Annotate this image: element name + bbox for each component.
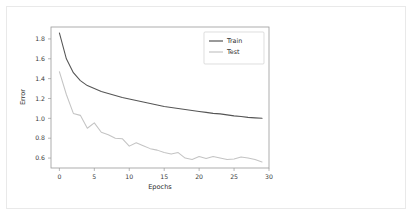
y-tick-label: 1.4 bbox=[35, 75, 45, 82]
y-axis-ticks: 0.60.81.01.21.41.61.8 bbox=[35, 35, 51, 161]
legend-label-train: Train bbox=[226, 37, 242, 45]
x-tick-label: 30 bbox=[265, 173, 273, 180]
document-frame: 051015202530 0.60.81.01.21.41.61.8 Epoch… bbox=[6, 6, 406, 209]
series-line-test bbox=[59, 72, 262, 162]
training-error-line-chart: 051015202530 0.60.81.01.21.41.61.8 Epoch… bbox=[7, 7, 307, 210]
legend-label-test: Test bbox=[226, 48, 240, 56]
y-tick-label: 1.2 bbox=[35, 95, 45, 102]
x-tick-label: 0 bbox=[57, 173, 61, 180]
chart-legend[interactable]: TrainTest bbox=[204, 32, 264, 64]
x-tick-label: 20 bbox=[195, 173, 203, 180]
x-tick-label: 5 bbox=[92, 173, 96, 180]
y-tick-label: 0.6 bbox=[35, 154, 45, 161]
chart-figure: 051015202530 0.60.81.01.21.41.61.8 Epoch… bbox=[7, 7, 307, 210]
x-tick-label: 10 bbox=[125, 173, 133, 180]
screenshot-root: 051015202530 0.60.81.01.21.41.61.8 Epoch… bbox=[0, 0, 414, 217]
y-tick-label: 1.6 bbox=[35, 55, 45, 62]
x-axis-title: Epochs bbox=[148, 183, 172, 191]
x-tick-label: 15 bbox=[160, 173, 168, 180]
x-axis-ticks: 051015202530 bbox=[57, 168, 273, 180]
x-tick-label: 25 bbox=[230, 173, 238, 180]
y-tick-label: 0.8 bbox=[35, 134, 45, 141]
y-axis-title: Error bbox=[19, 89, 27, 105]
y-tick-label: 1.0 bbox=[35, 115, 45, 122]
y-tick-label: 1.8 bbox=[35, 35, 45, 42]
